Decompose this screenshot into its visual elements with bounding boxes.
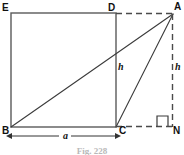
square-ebcd <box>11 13 116 127</box>
diagonal-b-to-a <box>11 14 173 127</box>
vertex-label-a: A <box>174 2 181 12</box>
geometry-figure: E D A B C N h h a Fig. 228 <box>0 0 184 155</box>
length-label-a: a <box>63 131 68 141</box>
segment-c-to-a <box>116 14 173 127</box>
vertex-label-d: D <box>108 3 115 13</box>
length-label-h-inner: h <box>118 62 124 72</box>
right-angle-at-n-icon <box>157 116 168 127</box>
vertex-label-e: E <box>2 3 9 13</box>
vertex-label-c: C <box>119 126 126 136</box>
vertex-label-b: B <box>2 126 9 136</box>
figure-caption: Fig. 228 <box>0 146 184 155</box>
figure-canvas <box>0 0 184 155</box>
vertex-label-n: N <box>173 126 180 136</box>
length-label-h-outer: h <box>175 62 181 72</box>
